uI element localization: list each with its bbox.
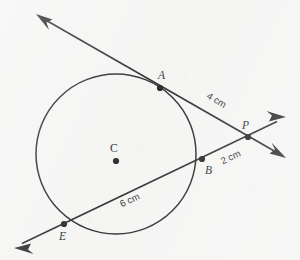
point-dot-E <box>61 221 67 227</box>
point-label-P: P <box>241 119 249 131</box>
point-label-A: A <box>157 69 166 81</box>
measure-label-6cm: 6 cm <box>118 190 141 209</box>
point-dot-B <box>199 156 205 162</box>
secant-line-EBP <box>22 122 277 244</box>
geometry-figure: A P B E C 4 cm 2 cm 6 cm <box>0 0 300 260</box>
center-label-C: C <box>110 142 118 154</box>
measure-label-4cm: 4 cm <box>205 90 228 110</box>
measure-label-2cm: 2 cm <box>219 147 242 166</box>
point-label-B: B <box>205 164 212 176</box>
geometry-diagram-canvas: A P B E C 4 cm 2 cm 6 cm <box>0 0 300 260</box>
point-label-E: E <box>58 230 66 242</box>
point-dot-A <box>157 85 163 91</box>
secant-arrow-upper-right-icon <box>267 111 287 122</box>
circle-shape <box>36 74 196 234</box>
secant-arrow-lower-left-icon <box>14 244 34 255</box>
point-dot-P <box>245 134 251 140</box>
point-dot-C <box>113 158 119 164</box>
